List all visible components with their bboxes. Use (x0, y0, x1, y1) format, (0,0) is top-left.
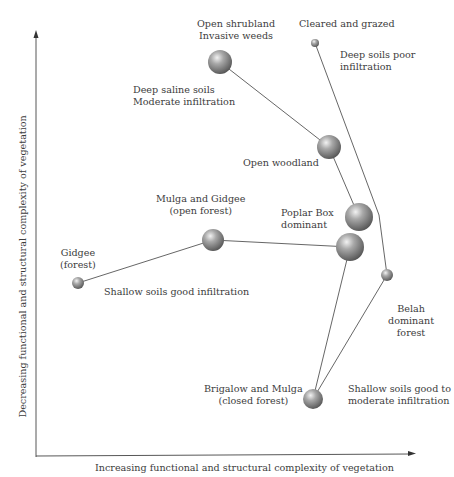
edge-junction-brigalow (313, 247, 350, 399)
label-open-woodland: Open woodland (243, 157, 319, 169)
label-line: dominant (388, 315, 434, 327)
y-axis-label: Decreasing functional and structural com… (17, 118, 28, 418)
annotation-line: infiltration (340, 61, 415, 73)
label-line: (closed forest) (204, 395, 303, 407)
label-line: Cleared and grazed (299, 18, 395, 30)
annotation-deep-saline: Deep saline soils Moderate infiltration (133, 84, 235, 108)
node-belah (381, 269, 393, 281)
node-poplar-box (345, 203, 373, 231)
label-line: Mulga and Gidgee (156, 193, 245, 205)
annotation-line: Shallow soils good to (348, 383, 451, 395)
label-cleared-grazed: Cleared and grazed (299, 18, 395, 30)
edge-shrubland-woodland (220, 62, 329, 147)
node-open-shrubland (208, 50, 232, 74)
label-line: Open shrubland (197, 18, 275, 30)
x-axis-arrow-icon (408, 451, 416, 456)
annotation-shallow-good-moderate: Shallow soils good to moderate infiltrat… (348, 383, 451, 407)
label-brigalow-mulga: Brigalow and Mulga (closed forest) (204, 383, 303, 407)
y-axis-arrow-icon (34, 30, 39, 38)
x-axis-line (36, 454, 410, 456)
annotation-line: moderate infiltration (348, 395, 451, 407)
node-open-woodland (317, 135, 341, 159)
annotation-line: Shallow soils good infiltration (104, 286, 249, 298)
label-line: dominant (281, 219, 334, 231)
annotation-shallow-good: Shallow soils good infiltration (104, 286, 249, 298)
annotation-line: Moderate infiltration (133, 96, 235, 108)
label-line: forest (388, 327, 434, 339)
label-line: (open forest) (156, 205, 245, 217)
label-mulga-gidgee: Mulga and Gidgee (open forest) (156, 193, 245, 217)
label-line: Belah (388, 303, 434, 315)
node-mulga-gidgee (202, 229, 224, 251)
label-poplar-box: Poplar Box dominant (281, 207, 334, 231)
edge-mulga-junction (213, 240, 350, 247)
node-cleared-grazed (311, 39, 319, 47)
label-line: Poplar Box (281, 207, 334, 219)
annotation-line: Deep saline soils (133, 84, 235, 96)
node-junction (336, 233, 364, 261)
annotation-deep-poor: Deep soils poor infiltration (340, 49, 415, 73)
label-line: Open woodland (243, 157, 319, 169)
label-gidgee-forest: Gidgee (forest) (60, 247, 96, 271)
label-line: Brigalow and Mulga (204, 383, 303, 395)
label-belah: Belah dominant forest (388, 303, 434, 339)
label-line: Invasive weeds (197, 30, 275, 42)
node-gidgee-forest (72, 277, 84, 289)
edge-belah-brigalow (313, 275, 387, 399)
label-open-shrubland: Open shrubland Invasive weeds (197, 18, 275, 42)
x-axis-label: Increasing functional and structural com… (95, 462, 394, 473)
annotation-line: Deep soils poor (340, 49, 415, 61)
node-brigalow-mulga (303, 389, 323, 409)
label-line: (forest) (60, 259, 96, 271)
edge-gidgee-mulga (78, 240, 213, 283)
label-line: Gidgee (60, 247, 96, 259)
